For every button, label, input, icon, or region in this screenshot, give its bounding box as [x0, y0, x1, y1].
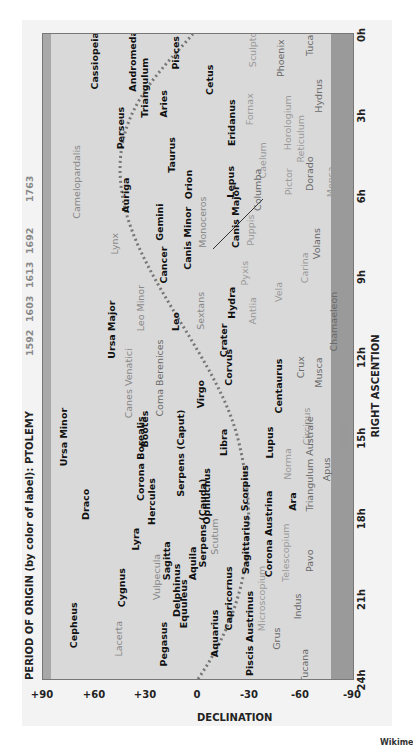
- constellation-label: Leo: [171, 312, 181, 331]
- constellation-label: Pavo: [305, 549, 315, 572]
- chart-title: PERIOD OF ORIGIN (by color of label): PT…: [24, 411, 35, 680]
- ecliptic-and-milky-way: [43, 34, 353, 679]
- constellation-label: Cepheus: [69, 602, 79, 648]
- constellation-label: Hydrus: [314, 79, 324, 113]
- legend-year-1692: 1692: [24, 228, 35, 254]
- constellation-label: Canis Major: [231, 185, 241, 248]
- legend-year-1763: 1763: [24, 176, 35, 202]
- credit-text: Wikimedia Commons: NASA CMG Lee: public …: [380, 738, 413, 746]
- y-tick-label: -90: [340, 689, 364, 700]
- constellation-label: Gemini: [155, 203, 165, 240]
- constellation-label: Capricornus: [224, 566, 234, 630]
- constellation-label: Dorado: [305, 156, 315, 191]
- constellation-label: Octans: [339, 421, 349, 454]
- constellation-label: Cetus: [205, 65, 215, 95]
- constellation-label: Phoenix: [276, 39, 286, 77]
- constellation-label: Carina: [300, 252, 310, 283]
- y-tick-label: -30: [237, 689, 261, 700]
- constellation-label: Telescopium: [281, 523, 291, 581]
- constellation-label: Ursa Minor: [59, 408, 69, 466]
- constellation-label: Equuleus: [179, 579, 189, 628]
- constellation-label: Lynx: [110, 233, 120, 255]
- constellation-label: Lyra: [131, 528, 141, 551]
- constellation-label: Microscopium: [257, 566, 267, 632]
- constellation-label: Libra: [219, 429, 229, 456]
- x-tick-label: 3h: [356, 109, 367, 123]
- x-tick-label: 12h: [356, 347, 367, 368]
- constellation-label: Antlia: [248, 297, 258, 324]
- constellation-label: Tucana: [305, 33, 315, 56]
- constellation-label: Triangulum: [140, 58, 150, 118]
- constellation-label: Aquarius: [210, 609, 220, 657]
- constellation-label: Auriga: [121, 178, 131, 213]
- constellation-label: Monoceros: [198, 196, 208, 247]
- constellation-label: Serpens (Cauda): [198, 479, 208, 568]
- x-tick-label: 9h: [356, 270, 367, 284]
- constellation-label: Camelopardalis: [72, 145, 82, 219]
- constellation-label: Centaurus: [274, 359, 284, 414]
- constellation-label: Ursa Major: [107, 301, 117, 359]
- constellation-label: Cygnus: [117, 568, 127, 607]
- constellation-label: Pisces: [171, 36, 181, 70]
- constellation-label: Sagittarius: [241, 515, 251, 574]
- constellation-label: Indus: [293, 594, 303, 620]
- constellation-label: Virgo: [196, 380, 206, 408]
- y-tick-label: -60: [288, 689, 312, 700]
- constellation-label: Taurus: [167, 137, 177, 173]
- constellation-label: Draco: [81, 489, 91, 520]
- constellation-label: Ara: [288, 492, 298, 510]
- y-tick-label: +60: [82, 689, 106, 700]
- constellation-label: Pyxis: [240, 261, 250, 286]
- legend-year-1592: 1592: [24, 330, 35, 356]
- x-tick-label: 24h: [356, 669, 367, 690]
- constellation-label: Crux: [296, 356, 306, 378]
- constellation-label: Fornax: [245, 93, 255, 125]
- constellation-label: Canes Venatici: [124, 348, 134, 418]
- y-tick-label: +30: [133, 689, 157, 700]
- x-tick-label: 6h: [356, 189, 367, 203]
- constellation-label: Musca: [314, 358, 324, 388]
- x-tick-label: 15h: [356, 428, 367, 449]
- constellation-label: Corona Austrina: [264, 491, 274, 578]
- constellation-label: Vela: [274, 282, 284, 302]
- y-tick-label: 0: [185, 689, 209, 700]
- constellation-label: Eridanus: [227, 99, 237, 146]
- constellation-label: Hydra: [227, 287, 237, 319]
- constellation-label: Norma: [283, 448, 293, 480]
- constellation-label: Grus: [272, 628, 282, 650]
- constellation-label: Piscis Austrinus: [245, 591, 255, 676]
- constellation-label: Pictor: [284, 168, 294, 195]
- constellation-label: Columba: [253, 169, 263, 211]
- constellation-label: Sextans: [196, 292, 206, 330]
- constellation-label: Horologium: [283, 95, 293, 150]
- x-axis-title: RIGHT ASCENTION: [370, 334, 381, 437]
- rotated-chart-stage: PERIOD OF ORIGIN (by color of label): PT…: [0, 0, 413, 746]
- constellation-label: Triangulum Australe: [305, 416, 315, 511]
- constellation-label: Mensa: [326, 166, 336, 197]
- constellation-label: Orion: [184, 170, 194, 199]
- constellation-label: Lacerta: [114, 621, 124, 657]
- constellation-label: Leo Minor: [136, 285, 146, 331]
- constellation-label: Pegasus: [159, 622, 169, 667]
- constellation-label: Sculptor: [248, 33, 258, 67]
- x-tick-label: 18h: [356, 508, 367, 529]
- constellation-label: Volans: [312, 228, 322, 259]
- constellation-label: Scutum: [210, 518, 220, 554]
- constellation-label: Aquila: [188, 547, 198, 581]
- constellation-label: Hercules: [147, 478, 157, 525]
- y-tick-label: +90: [30, 689, 54, 700]
- constellation-label: Lupus: [265, 426, 275, 458]
- constellation-label: Puppis: [246, 215, 256, 246]
- constellation-label: Cassiopeia: [90, 33, 100, 90]
- constellation-label: Scorpius: [240, 465, 250, 511]
- constellation-label: Serpens (Caput): [176, 410, 186, 497]
- x-tick-label: 21h: [356, 589, 367, 610]
- constellation-label: Perseus: [116, 107, 126, 150]
- constellation-label: Aries: [159, 90, 169, 117]
- x-tick-label: 0h: [356, 28, 367, 42]
- y-axis-title: DECLINATION: [197, 712, 272, 723]
- constellation-label: Tucana: [300, 649, 310, 680]
- constellation-label: Canis Minor: [183, 207, 193, 270]
- star-map-plot: CepheusCassiopeiaAndromedaTriangulumPisc…: [42, 33, 354, 680]
- legend-year-1603: 1603: [24, 296, 35, 322]
